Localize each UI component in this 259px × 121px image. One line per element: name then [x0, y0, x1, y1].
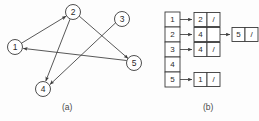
list-node-value-2-0: 4	[198, 30, 203, 39]
edge-2-to-4	[46, 19, 70, 81]
figure-container: 1 2 3 4 5	[0, 0, 259, 121]
caption-panel-b: (b)	[203, 102, 213, 112]
list-node-value-3-0: 4	[198, 45, 203, 54]
vertex-cell-label-2: 2	[170, 30, 175, 39]
vertex-cell-5[interactable]: 5	[165, 72, 180, 87]
caption-panel-a: (a)	[62, 102, 72, 112]
node-label-5: 5	[132, 58, 137, 68]
node-label-1: 1	[13, 42, 18, 52]
vertex-cell-1[interactable]: 1	[165, 12, 180, 27]
node-label-3: 3	[120, 14, 125, 24]
vertex-cell-label-5: 5	[170, 75, 175, 84]
edge-1-to-2	[22, 16, 67, 43]
graph-panel: 1 2 3 4 5	[0, 0, 152, 121]
edge-5-to-1	[23, 48, 126, 60]
graph-node-2[interactable]: 2	[66, 5, 81, 20]
vertex-cell-label-4: 4	[170, 60, 175, 69]
list-node-value-2-1: 5	[236, 30, 241, 39]
vertex-cell-4[interactable]: 4	[165, 57, 180, 72]
node-label-4: 4	[41, 84, 46, 94]
graph-svg: 1 2 3 4 5	[0, 0, 152, 100]
graph-node-5[interactable]: 5	[127, 56, 142, 71]
list-node-value-5-0: 1	[198, 75, 203, 84]
vertex-cell-label-1: 1	[170, 15, 175, 24]
adjacency-row-1: 2 /	[180, 13, 220, 27]
list-node-value-1-0: 2	[198, 15, 203, 24]
node-label-2: 2	[71, 7, 76, 17]
graph-node-1[interactable]: 1	[8, 40, 23, 55]
adjacency-list-svg: 1 2 3 4 5	[152, 0, 259, 100]
graph-edges	[22, 16, 129, 84]
vertex-index-column: 1 2 3 4 5	[165, 12, 180, 87]
graph-node-3[interactable]: 3	[115, 12, 130, 27]
list-node-next-rect-2-0[interactable]	[207, 28, 220, 42]
edge-3-to-4	[50, 23, 116, 85]
adjacency-row-5: 1 /	[180, 73, 220, 87]
vertex-cell-3[interactable]: 3	[165, 42, 180, 57]
adjacency-row-2: 4 5 /	[180, 28, 258, 42]
vertex-cell-label-3: 3	[170, 45, 175, 54]
adjacency-row-3: 4 /	[180, 43, 220, 57]
vertex-cell-2[interactable]: 2	[165, 27, 180, 42]
graph-node-4[interactable]: 4	[36, 82, 51, 97]
